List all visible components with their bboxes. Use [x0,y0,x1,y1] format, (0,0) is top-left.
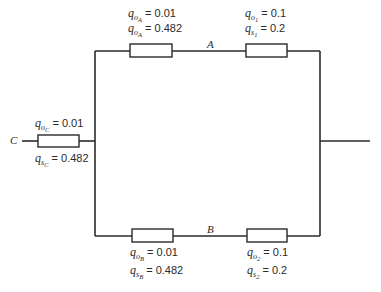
component-b-second [247,229,287,242]
label-a-first-q0: qoA = 0.01 [128,7,176,21]
node-label-c: C [10,134,17,146]
component-a-second [246,44,287,57]
label-a-second-qs: qs1 = 0.2 [245,22,285,36]
component-b-first [132,229,173,242]
component-c [38,135,79,147]
node-label-a: A [207,38,214,50]
label-c-q0: qoC = 0.01 [35,117,83,131]
label-b-second-qs: qs2 = 0.2 [247,264,287,278]
label-b-first-q0: qoB = 0.01 [130,246,178,260]
label-c-qs: qsC = 0.482 [35,152,89,166]
label-a-second-q0: qo1 = 0.1 [245,7,286,21]
label-b-first-qs: qsB = 0.482 [130,264,183,278]
circuit-diagram [0,0,381,292]
node-label-b: B [207,223,214,235]
label-b-second-q0: qo2 = 0.1 [247,246,288,260]
label-a-first-qs: qoA = 0.482 [128,22,182,36]
component-a-first [130,44,172,57]
